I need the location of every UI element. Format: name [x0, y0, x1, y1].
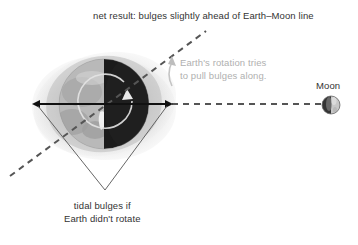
tidal-bulge-diagram: net result: bulges slightly ahead of Ear…: [0, 0, 358, 245]
caption-tidal-bulges-line1: tidal bulges if: [64, 200, 141, 213]
label-moon: Moon: [316, 80, 340, 92]
moon-globe: [322, 96, 340, 114]
caption-net-result: net result: bulges slightly ahead of Ear…: [93, 10, 314, 22]
caption-earth-rotation-line1: Earth's rotation tries: [180, 57, 267, 70]
caption-earth-rotation: Earth's rotation tries to pull bulges al…: [180, 57, 267, 82]
caption-tidal-bulges: tidal bulges if Earth didn't rotate: [64, 200, 141, 225]
diagram-canvas: [0, 0, 358, 245]
caption-earth-rotation-line2: to pull bulges along.: [180, 70, 267, 83]
caption-tidal-bulges-line2: Earth didn't rotate: [64, 213, 141, 226]
